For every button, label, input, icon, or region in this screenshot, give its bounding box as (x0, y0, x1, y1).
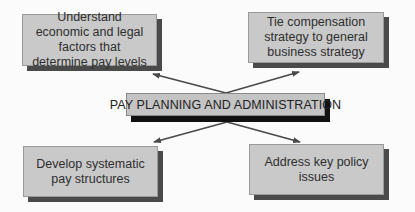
diagram-canvas: Understand economic and legal factors th… (0, 0, 415, 212)
node-top-left: Understand economic and legal factors th… (22, 14, 157, 66)
node-bottom-right-label: Address key policy issues (258, 155, 375, 185)
node-top-right-label: Tie compensation strategy to general bus… (257, 15, 375, 60)
arrow-to-top-right (226, 72, 299, 93)
node-top-right: Tie compensation strategy to general bus… (248, 12, 384, 63)
center-node-label: PAY PLANNING AND ADMINISTRATION (110, 98, 341, 112)
center-node: PAY PLANNING AND ADMINISTRATION (126, 93, 325, 116)
node-bottom-right: Address key policy issues (249, 144, 384, 195)
node-bottom-left-label: Develop systematic pay structures (32, 157, 149, 187)
arrow-to-bottom-left (154, 122, 227, 142)
node-top-left-label: Understand economic and legal factors th… (31, 10, 148, 70)
arrow-to-top-left (153, 74, 226, 93)
node-bottom-left: Develop systematic pay structures (23, 146, 158, 197)
arrow-to-bottom-right (227, 122, 300, 142)
